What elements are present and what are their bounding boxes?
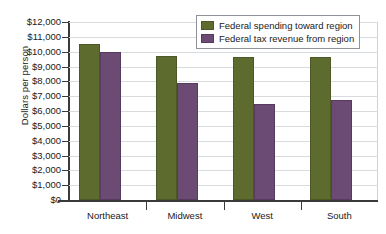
legend-item-spending: Federal spending toward region: [201, 19, 354, 32]
y-axis-tick-label: $8,000: [1, 76, 61, 86]
x-axis-separator: [301, 200, 302, 210]
y-axis-tick: [62, 96, 69, 97]
y-axis-tick-label: $4,000: [1, 136, 61, 146]
bar-northeast-spending: [79, 44, 100, 200]
legend-label-revenue: Federal tax revenue from region: [219, 33, 354, 44]
y-axis-tick-label: $7,000: [1, 91, 61, 101]
legend-swatch-spending-icon: [201, 21, 214, 30]
y-axis-tick-label: $10,000: [1, 47, 61, 57]
x-axis-separator: [146, 200, 147, 210]
y-axis-tick-label: $3,000: [1, 151, 61, 161]
y-axis-tick: [62, 156, 69, 157]
legend-swatch-revenue-icon: [201, 34, 214, 43]
y-axis-tick-label: $12,000: [1, 17, 61, 27]
bar-west-revenue: [254, 104, 275, 200]
chart-legend: Federal spending toward region Federal t…: [196, 15, 360, 49]
y-axis-tick: [62, 81, 69, 82]
y-axis-tick-label: $11,000: [1, 32, 61, 42]
bar-south-spending: [310, 57, 331, 200]
y-axis-tick-label: $2,000: [1, 165, 61, 175]
y-axis-tick: [62, 141, 69, 142]
bar-west-spending: [233, 57, 254, 200]
legend-label-spending: Federal spending toward region: [219, 20, 353, 31]
y-axis-tick: [62, 37, 69, 38]
legend-item-revenue: Federal tax revenue from region: [201, 32, 354, 45]
y-axis-tick: [62, 185, 69, 186]
y-axis-tick: [62, 170, 69, 171]
bar-chart: Dollars per person $0$1,000$2,000$3,000$…: [0, 0, 386, 234]
y-axis-tick-label: $9,000: [1, 62, 61, 72]
bar-northeast-revenue: [100, 52, 121, 200]
bar-south-revenue: [331, 100, 352, 200]
x-axis-separator: [224, 200, 225, 210]
y-axis-tick: [62, 22, 69, 23]
y-axis-tick: [62, 67, 69, 68]
y-axis-tick-label: $0: [1, 195, 61, 205]
y-axis-tick-label: $1,000: [1, 180, 61, 190]
y-axis-tick: [62, 126, 69, 127]
bar-midwest-spending: [156, 56, 177, 200]
y-axis-tick: [62, 52, 69, 53]
y-axis-tick-label: $5,000: [1, 121, 61, 131]
y-axis-tick-label: $6,000: [1, 106, 61, 116]
y-axis-tick: [62, 111, 69, 112]
x-axis-label-south: South: [294, 210, 384, 221]
x-axis-line: [58, 200, 378, 202]
bar-midwest-revenue: [177, 83, 198, 200]
